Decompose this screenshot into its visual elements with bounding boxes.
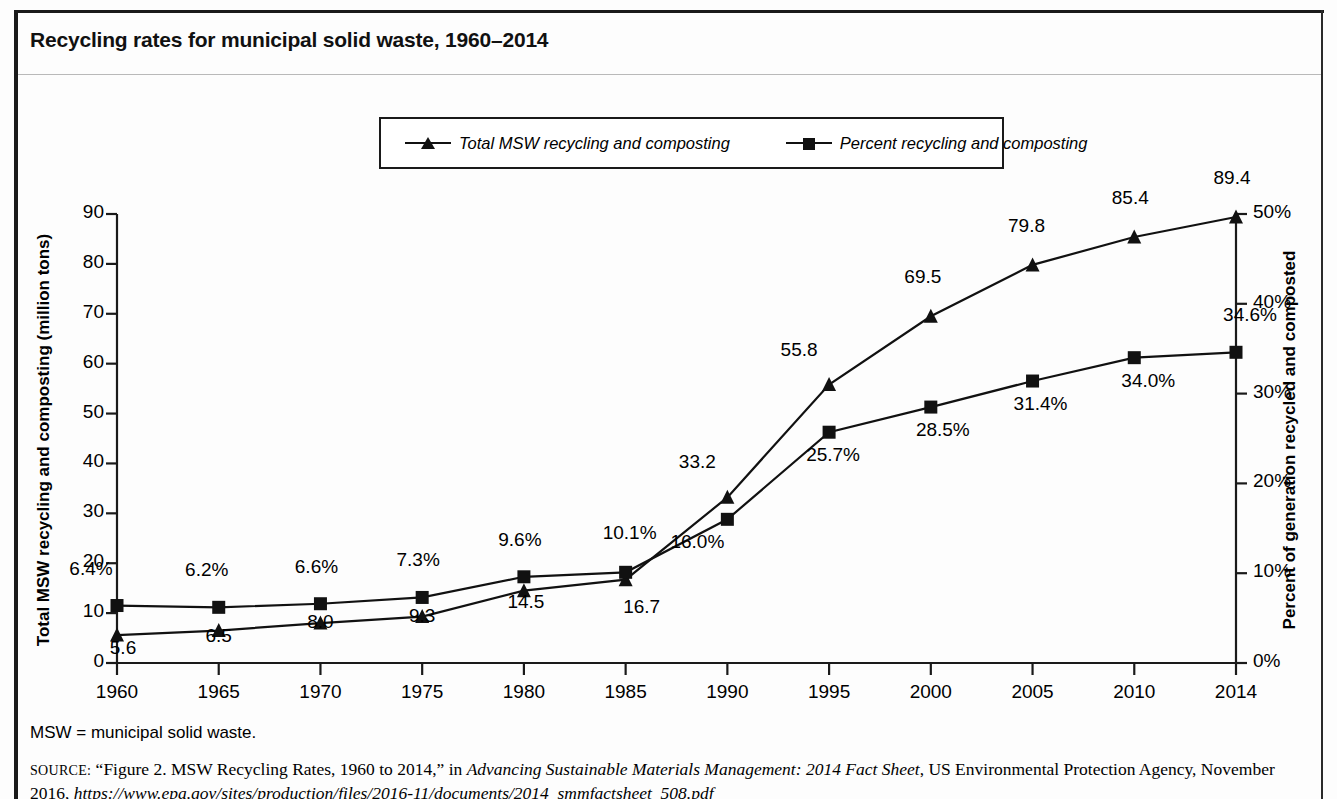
x-axis-tick-2005: 2005 [988,681,1078,703]
data-label-tons-2014: 89.4 [1189,167,1275,189]
data-label-pct-1980: 9.6% [477,529,563,551]
triangle-marker-icon [405,136,451,150]
data-point-marker [1026,257,1040,271]
data-label-pct-1975: 7.3% [375,549,461,571]
legend-label-total-msw: Total MSW recycling and composting [459,134,730,153]
x-axis-tick-2000: 2000 [886,681,976,703]
chart-source: SOURCE: “Figure 2. MSW Recycling Rates, … [30,758,1310,799]
x-axis-tick-1965: 1965 [174,681,264,703]
data-label-pct-2005: 31.4% [998,393,1084,415]
title-divider [18,74,1321,75]
data-label-tons-2010: 85.4 [1087,187,1173,209]
data-point-marker [1230,346,1243,359]
x-axis-tick-1985: 1985 [581,681,671,703]
data-label-pct-1965: 6.2% [164,559,250,581]
y-axis-left-tick-30: 30 [52,500,104,522]
y-axis-right-tick-30: 30% [1253,381,1315,403]
x-axis-tick-1995: 1995 [784,681,874,703]
figure-border-left [14,10,18,799]
y-axis-right-title: Percent of generation recycled and compo… [1280,190,1300,690]
data-label-pct-2014: 34.6% [1207,304,1293,326]
y-axis-left-tick-90: 90 [52,201,104,223]
x-axis-tick-2014: 2014 [1191,681,1281,703]
data-label-tons-2005: 79.8 [984,215,1070,237]
legend-item-total-msw[interactable]: Total MSW recycling and composting [405,134,730,153]
x-axis-tick-1970: 1970 [275,681,365,703]
data-point-marker [823,426,836,439]
data-label-tons-1975: 9.3 [379,605,465,627]
data-label-tons-1985: 16.7 [599,596,685,618]
data-label-pct-1995: 25.7% [790,444,876,466]
data-point-marker [720,490,734,504]
data-label-pct-2000: 28.5% [900,419,986,441]
data-label-tons-2000: 69.5 [880,266,966,288]
source-in-word: in [449,759,463,779]
figure-container: Recycling rates for municipal solid wast… [0,0,1337,799]
data-label-tons-1980: 14.5 [483,591,569,613]
data-label-tons-1965: 6.5 [176,625,262,647]
data-point-marker [721,513,734,526]
square-marker-icon [786,136,832,150]
y-axis-right-tick-20: 20% [1253,470,1315,492]
data-point-marker [416,591,429,604]
x-axis-tick-1980: 1980 [479,681,569,703]
y-axis-left-tick-70: 70 [52,301,104,323]
data-point-marker [212,601,225,614]
source-quoted-title: “Figure 2. MSW Recycling Rates, 1960 to … [96,759,445,779]
y-axis-right-tick-50: 50% [1253,201,1315,223]
x-axis-tick-1975: 1975 [377,681,467,703]
data-label-tons-1995: 55.8 [756,339,842,361]
y-axis-right-tick-0: 0% [1253,650,1315,672]
source-prefix: SOURCE: [30,763,91,778]
y-axis-left-tick-10: 10 [52,600,104,622]
legend-item-percent[interactable]: Percent recycling and composting [786,134,1088,153]
data-point-marker [822,377,836,391]
source-publication: Advancing Sustainable Materials Manageme… [467,759,920,779]
data-label-pct-1970: 6.6% [273,556,359,578]
y-axis-left-tick-50: 50 [52,401,104,423]
data-point-marker [1127,229,1141,243]
figure-border-top [14,10,1324,13]
figure-border-right [1321,10,1323,799]
x-axis-tick-1960: 1960 [72,681,162,703]
data-point-marker [111,599,124,612]
data-point-marker [1229,209,1243,223]
y-axis-right-tick-10: 10% [1253,560,1315,582]
y-axis-left-tick-80: 80 [52,251,104,273]
data-point-marker [314,597,327,610]
data-label-tons-1970: 8.0 [277,611,363,633]
data-label-pct-2010: 34.0% [1105,370,1191,392]
data-point-marker [1128,351,1141,364]
chart-legend: Total MSW recycling and composting Perce… [379,117,1004,169]
source-url[interactable]: https://www.epa.gov/sites/production/fil… [74,783,714,799]
data-point-marker [924,309,938,323]
data-label-pct-1960: 6.4% [48,558,134,580]
data-label-pct-1990: 16.0% [654,531,740,553]
x-axis-tick-1990: 1990 [682,681,772,703]
data-point-marker [924,401,937,414]
data-point-marker [1026,375,1039,388]
data-label-tons-1960: 5.6 [80,637,166,659]
data-point-marker [517,570,530,583]
page-title: Recycling rates for municipal solid wast… [30,28,548,52]
y-axis-left-tick-40: 40 [52,450,104,472]
data-point-marker [619,566,632,579]
chart-footnote: MSW = municipal solid waste. [30,723,256,743]
data-label-tons-1990: 33.2 [654,451,740,473]
data-point-marker [619,572,633,586]
x-axis-tick-2010: 2010 [1089,681,1179,703]
legend-label-percent: Percent recycling and composting [840,134,1088,153]
y-axis-left-tick-60: 60 [52,351,104,373]
y-axis-left-title: Total MSW recycling and composting (mill… [34,190,54,690]
